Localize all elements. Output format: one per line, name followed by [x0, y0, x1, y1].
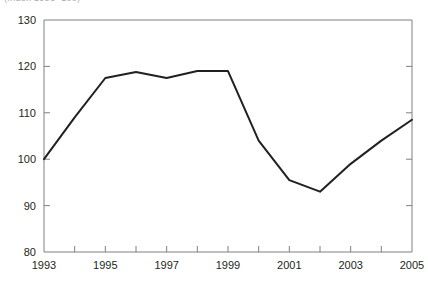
y-tick-label: 110 [18, 107, 36, 119]
y-tick-label: 80 [24, 246, 36, 258]
x-tick-label: 2001 [277, 259, 301, 271]
y-axis: 8090100110120130 [18, 14, 412, 258]
axis-frame [44, 20, 412, 252]
x-tick-label: 2003 [338, 259, 362, 271]
y-tick-label: 130 [18, 14, 36, 26]
y-tick-label: 90 [24, 200, 36, 212]
x-tick-label: 1997 [154, 259, 178, 271]
chart-plot-area: 8090100110120130199319951997199920012003… [0, 0, 428, 286]
x-tick-label: 2005 [400, 259, 424, 271]
x-tick-label: 1999 [216, 259, 240, 271]
y-tick-label: 100 [18, 153, 36, 165]
x-tick-label: 1995 [93, 259, 117, 271]
x-tick-label: 1993 [32, 259, 56, 271]
data-series-line [44, 71, 412, 192]
line-chart: (Index 1993=100) 80901001101201301993199… [0, 0, 428, 286]
y-tick-label: 120 [18, 60, 36, 72]
x-axis: 1993199519971999200120032005 [32, 246, 424, 271]
